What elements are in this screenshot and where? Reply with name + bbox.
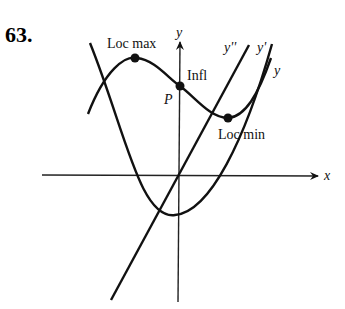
x-axis-label: x (323, 168, 331, 183)
x-axis (42, 175, 318, 176)
graph-figure: 63. Loc max Infl P Loc min y x y'' y' y (0, 0, 345, 309)
y-prime-label: y' (255, 40, 267, 55)
infl-point (176, 82, 185, 91)
loc-max-point (131, 54, 140, 63)
point-p-label: P (163, 92, 173, 107)
y-double-prime-label: y'' (222, 40, 237, 55)
loc-max-label: Loc max (107, 36, 156, 51)
loc-min-label: Loc min (218, 127, 265, 142)
infl-label: Infl (187, 68, 207, 83)
loc-min-point (224, 114, 233, 123)
problem-number: 63. (5, 22, 33, 47)
y-label: y (272, 63, 281, 78)
y-axis-label: y (174, 25, 183, 40)
